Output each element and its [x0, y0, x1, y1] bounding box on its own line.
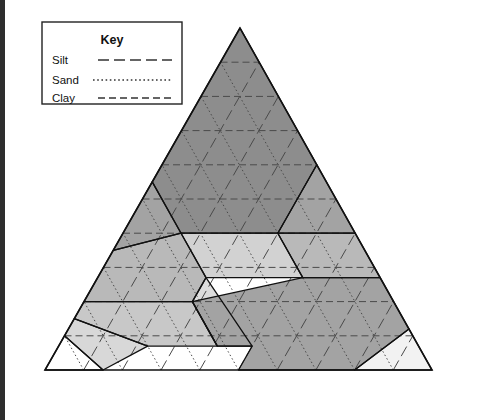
- soil-texture-triangle: [0, 0, 479, 420]
- texture-regions: [45, 28, 432, 370]
